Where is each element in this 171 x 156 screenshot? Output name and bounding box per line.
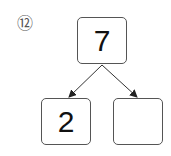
bottom-left-number-box: 2 <box>41 98 91 145</box>
bottom-right-answer-box[interactable] <box>113 98 163 145</box>
arrow-right <box>102 65 137 97</box>
top-number-box: 7 <box>77 17 127 64</box>
arrow-left <box>69 65 102 97</box>
top-value: 7 <box>94 24 111 58</box>
bottom-left-value: 2 <box>58 105 75 139</box>
